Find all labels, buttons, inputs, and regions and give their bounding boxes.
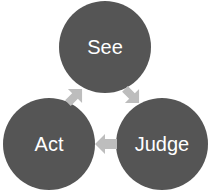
see-node: See bbox=[59, 1, 151, 93]
arrow-judge-to-act-icon bbox=[93, 133, 119, 155]
see-label: See bbox=[87, 36, 123, 59]
act-label: Act bbox=[35, 133, 64, 156]
judge-label: Judge bbox=[135, 133, 190, 156]
judge-node: Judge bbox=[116, 98, 208, 190]
arrow-see-to-judge-icon bbox=[118, 82, 146, 110]
act-node: Act bbox=[3, 98, 95, 190]
arrow-act-to-see-icon bbox=[61, 82, 89, 110]
